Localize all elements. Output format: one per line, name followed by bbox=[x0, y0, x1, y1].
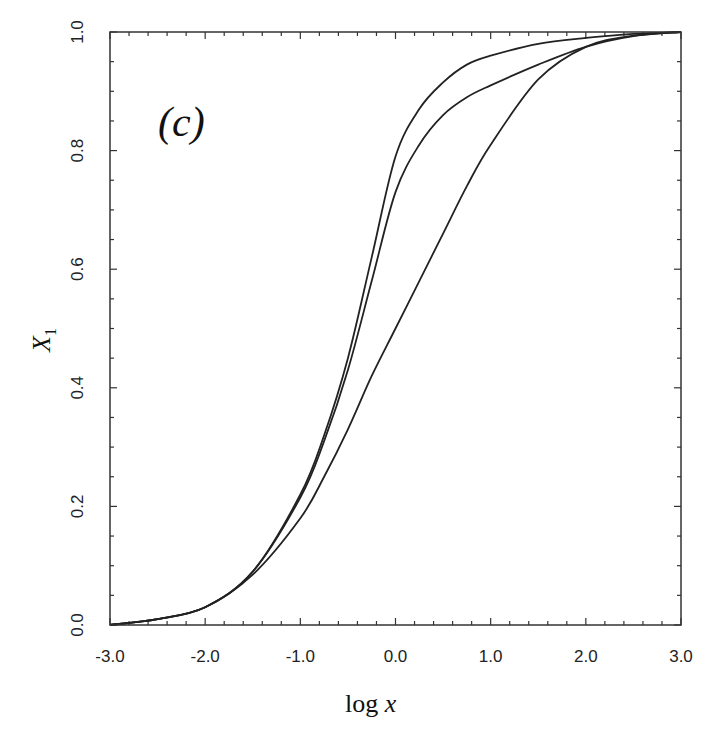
y-axis-title-sub: 1 bbox=[42, 328, 59, 336]
y-tick-label: 0.4 bbox=[68, 376, 87, 400]
y-tick-label: 0.6 bbox=[68, 257, 87, 281]
y-tick-label: 0.0 bbox=[68, 613, 87, 637]
panel-label: (c) bbox=[158, 99, 205, 146]
x-tick-label: -2.0 bbox=[191, 647, 220, 666]
y-tick-label: 0.2 bbox=[68, 495, 87, 519]
y-tick-labels: 0.00.20.40.60.81.0 bbox=[68, 20, 87, 637]
x-axis-title-text: log bbox=[345, 689, 385, 718]
x-tick-labels: -3.0-2.0-1.00.01.02.03.0 bbox=[95, 647, 692, 666]
x-tick-label: 1.0 bbox=[479, 647, 503, 666]
y-axis-title: X1 bbox=[27, 328, 59, 353]
x-tick-label: 0.0 bbox=[384, 647, 408, 666]
x-tick-label: -1.0 bbox=[286, 647, 315, 666]
x-axis-title-var: x bbox=[384, 689, 397, 718]
y-axis-title-main: X bbox=[27, 335, 56, 353]
x-tick-label: -3.0 bbox=[95, 647, 124, 666]
x-axis-title: log x bbox=[345, 689, 397, 718]
y-tick-label: 0.8 bbox=[68, 139, 87, 163]
x-tick-label: 2.0 bbox=[574, 647, 598, 666]
svg-text:X1: X1 bbox=[27, 328, 59, 353]
x-tick-label: 3.0 bbox=[669, 647, 693, 666]
y-tick-label: 1.0 bbox=[68, 20, 87, 44]
chart: -3.0-2.0-1.00.01.02.03.0 0.00.20.40.60.8… bbox=[0, 0, 713, 740]
